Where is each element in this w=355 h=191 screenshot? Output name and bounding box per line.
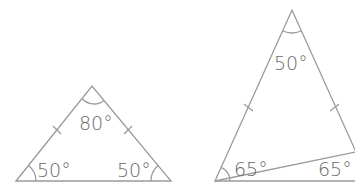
left-base-right-angle-arc: [151, 166, 158, 181]
left-base-right-angle-label: 50°: [117, 159, 151, 181]
right-base-right-angle-label: 65°: [318, 158, 352, 180]
left-base-left-angle-arc: [29, 165, 37, 181]
right-apex-angle-label: 50°: [274, 52, 308, 74]
isosceles-triangles-diagram: 80° 50° 50° 50° 65° 65°: [0, 0, 355, 191]
left-apex-angle-label: 80°: [79, 112, 113, 134]
right-triangle-outline: [215, 10, 355, 181]
left-apex-angle-arc: [82, 99, 104, 104]
right-base-left-angle-label: 65°: [234, 158, 268, 180]
right-apex-angle-arc: [283, 31, 301, 33]
left-base-left-angle-label: 50°: [37, 159, 71, 181]
right-triangle: [215, 10, 355, 181]
